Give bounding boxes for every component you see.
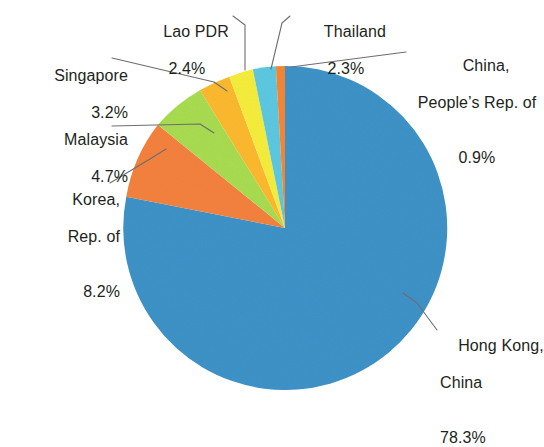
pie-label-singapore-name: Singapore: [54, 67, 128, 84]
pie-label-lao-pdr-value: 2.4%: [126, 60, 248, 79]
pie-label-hong-kong-name-line2: China: [440, 374, 542, 393]
pie-label-thailand-value: 2.3%: [292, 60, 400, 79]
pie-label-china: China, People’s Rep. of 0.9%: [412, 38, 542, 205]
pie-label-hong-kong-name-line1: Hong Kong,: [458, 337, 544, 354]
pie-label-hong-kong: Hong Kong, China 78.3%: [440, 318, 542, 447]
pie-label-malaysia-name: Malaysia: [64, 131, 128, 148]
pie-label-china-value: 0.9%: [412, 149, 542, 168]
pie-label-china-name-line2: People’s Rep. of: [412, 94, 542, 113]
pie-label-lao-pdr: Lao PDR 2.4%: [126, 4, 248, 115]
pie-label-korea-value: 8.2%: [2, 283, 120, 302]
pie-label-korea-name-line2: Rep. of: [2, 228, 120, 247]
pie-label-hong-kong-value: 78.3%: [440, 429, 542, 447]
pie-label-thailand-name: Thailand: [324, 23, 386, 40]
pie-label-thailand: Thailand 2.3%: [292, 4, 400, 115]
pie-label-korea: Korea, Rep. of 8.2%: [2, 172, 120, 339]
leader-line-thailand: [271, 16, 290, 69]
pie-label-lao-pdr-name: Lao PDR: [163, 23, 229, 40]
pie-label-korea-name-line1: Korea,: [72, 191, 120, 208]
pie-label-china-name-line1: China,: [463, 57, 510, 74]
